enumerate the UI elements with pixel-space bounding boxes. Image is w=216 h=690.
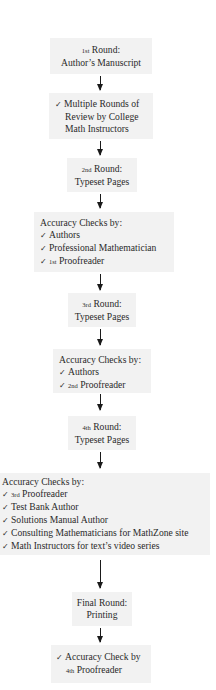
check-icon: ✓ bbox=[59, 381, 66, 390]
step-round4-box: 4th Round: Typeset Pages bbox=[68, 416, 136, 450]
arrow-down-icon bbox=[100, 628, 101, 642]
checks2-heading: Accuracy Checks by: bbox=[59, 354, 151, 366]
checks2-item: ✓2nd Proofreader bbox=[59, 379, 151, 392]
checks3-item: ✓3rd Proofreader bbox=[2, 488, 210, 501]
round1-subtitle: Author’s Manuscript bbox=[50, 57, 152, 69]
arrow-down-icon bbox=[100, 76, 101, 90]
step-review-box: ✓Multiple Rounds of Review by College Ma… bbox=[49, 93, 153, 139]
check-icon: ✓ bbox=[2, 490, 9, 499]
check-icon: ✓ bbox=[40, 257, 47, 266]
arrow-down-icon bbox=[100, 194, 101, 208]
arrow-down-icon bbox=[100, 560, 101, 588]
step-round2-box: 2nd Round: Typeset Pages bbox=[67, 158, 137, 192]
step-checks2-box: Accuracy Checks by: ✓Authors ✓2nd Proofr… bbox=[53, 349, 151, 393]
arrow-down-icon bbox=[100, 452, 101, 468]
step-final-check-box: ✓Accuracy Check by 4th Proofreader bbox=[51, 645, 151, 683]
checks3-heading: Accuracy Checks by: bbox=[2, 476, 210, 488]
step-checks3-box: Accuracy Checks by: ✓3rd Proofreader ✓Te… bbox=[0, 473, 210, 555]
step-checks1-box: Accuracy Checks by: ✓Authors ✓Profession… bbox=[34, 212, 174, 272]
step-round3-box: 3rd Round: Typeset Pages bbox=[68, 293, 136, 327]
check-icon: ✓ bbox=[55, 100, 62, 109]
check-icon: ✓ bbox=[56, 653, 63, 662]
checks1-item: ✓Professional Mathematician bbox=[40, 242, 174, 255]
check-icon: ✓ bbox=[59, 368, 66, 377]
check-icon: ✓ bbox=[2, 516, 9, 525]
arrow-down-icon bbox=[100, 141, 101, 155]
checks3-item: ✓Test Bank Author bbox=[2, 501, 210, 514]
check-icon: ✓ bbox=[2, 503, 9, 512]
round1-title: 1st Round: bbox=[50, 44, 152, 57]
check-icon: ✓ bbox=[40, 231, 47, 240]
step-round1-box: 1st Round: Author’s Manuscript bbox=[50, 38, 152, 74]
checks1-item: ✓1st Proofreader bbox=[40, 255, 174, 268]
checks3-item: ✓Math Instructors for text’s video serie… bbox=[2, 540, 210, 553]
checks3-item: ✓Consulting Mathematicians for MathZone … bbox=[2, 527, 210, 540]
checks1-item: ✓Authors bbox=[40, 229, 174, 242]
check-icon: ✓ bbox=[40, 244, 47, 253]
checks1-heading: Accuracy Checks by: bbox=[40, 217, 174, 229]
check-icon: ✓ bbox=[2, 529, 9, 538]
arrow-down-icon bbox=[100, 274, 101, 290]
checks3-item: ✓Solutions Manual Author bbox=[2, 514, 210, 527]
checks2-item: ✓Authors bbox=[59, 366, 151, 379]
step-final-box: Final Round: Printing bbox=[72, 592, 132, 626]
arrow-down-icon bbox=[100, 394, 101, 410]
arrow-down-icon bbox=[100, 329, 101, 345]
check-icon: ✓ bbox=[2, 542, 9, 551]
